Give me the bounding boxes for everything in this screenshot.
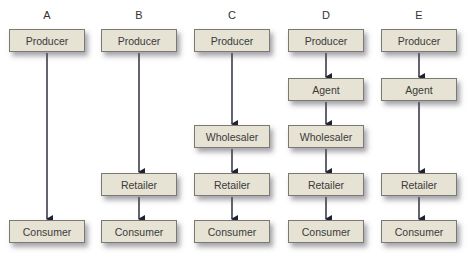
node-e-consumer: Consumer [381,220,457,243]
node-a-producer: Producer [9,29,85,52]
node-c-wholesaler: Wholesaler [194,125,270,148]
node-b-retailer: Retailer [101,173,177,196]
node-c-producer: Producer [194,29,270,52]
node-b-producer: Producer [101,29,177,52]
node-d-consumer: Consumer [288,220,364,243]
node-d-agent: Agent [288,78,364,101]
node-a-consumer: Consumer [9,220,85,243]
channel-label-e: E [380,9,458,21]
channel-label-b: B [100,9,178,21]
node-e-agent: Agent [381,78,457,101]
node-e-producer: Producer [381,29,457,52]
node-c-retailer: Retailer [194,173,270,196]
node-d-producer: Producer [288,29,364,52]
node-e-retailer: Retailer [381,173,457,196]
node-d-retailer: Retailer [288,173,364,196]
channel-label-c: C [193,9,271,21]
node-b-consumer: Consumer [101,220,177,243]
channel-label-d: D [287,9,365,21]
node-d-wholesaler: Wholesaler [288,125,364,148]
node-c-consumer: Consumer [194,220,270,243]
channel-label-a: A [8,9,86,21]
